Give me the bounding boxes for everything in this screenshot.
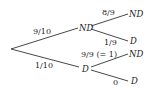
- node-leaf-d-d: D: [130, 76, 138, 86]
- edge-d-to-d: [91, 70, 128, 81]
- probability-tree-diagram: 9/10 1/10 8/9 1/9 9/9 (= 1) 0 ND D ND D …: [0, 0, 151, 100]
- node-level1-nd: ND: [78, 23, 93, 33]
- edge-label-root-nd: 9/10: [33, 27, 51, 36]
- edge-label-root-d: 1/10: [35, 61, 53, 70]
- edge-label-nd-d: 1/9: [104, 38, 117, 47]
- edge-label-d-nd: 9/9 (= 1): [81, 50, 117, 59]
- node-leaf-nd-d: D: [129, 36, 137, 46]
- node-leaf-d-nd: ND: [128, 49, 143, 59]
- node-leaf-nd-nd: ND: [128, 9, 143, 19]
- node-level1-d: D: [81, 64, 89, 74]
- edge-label-d-d: 0: [113, 78, 118, 87]
- edge-label-nd-nd: 8/9: [102, 8, 115, 17]
